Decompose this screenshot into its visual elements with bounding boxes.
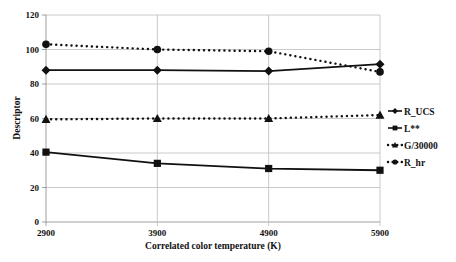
y-tick-label: 40 [30,148,40,158]
y-axis-title: Descriptor [12,96,22,140]
legend-item: R_UCS [388,107,435,117]
legend-label: L** [404,124,420,134]
series-l- [42,149,383,174]
x-tick-label: 2900 [37,228,56,238]
x-axis-ticks: 2900390049005900 [37,228,390,238]
legend-label: R_hr [404,158,426,168]
x-tick-label: 3900 [148,228,167,238]
legend-label: R_UCS [404,107,435,117]
y-tick-label: 0 [35,217,40,227]
series-r-ucs [42,60,385,76]
legend-label: G/30000 [404,141,438,151]
legend-item: G/30000 [388,141,438,151]
data-series [42,41,385,174]
x-tick-label: 4900 [260,228,279,238]
x-axis-title: Correlated color temperature (K) [145,241,281,252]
line-chart: 020406080100120 2900390049005900 Descrip… [0,0,456,262]
x-tick-label: 5900 [371,228,390,238]
y-tick-label: 80 [30,79,40,89]
legend-item: R_hr [388,158,426,168]
y-tick-label: 20 [30,183,40,193]
y-tick-label: 100 [26,45,40,55]
series-g-30000 [42,111,385,123]
y-axis-ticks: 020406080100120 [26,10,40,227]
y-tick-label: 120 [26,10,40,20]
legend-item: L** [388,124,420,134]
y-tick-label: 60 [30,114,40,124]
legend: R_UCSL**G/30000R_hr [388,107,438,168]
